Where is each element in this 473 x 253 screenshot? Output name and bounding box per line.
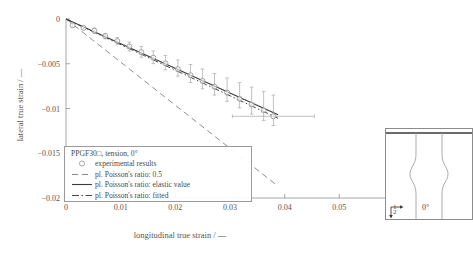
legend-item-poisson-half: pl. Poisson's ratio: 0.5 [69, 169, 247, 180]
x-tick-label: 0.04 [278, 203, 292, 212]
x-tick-label: 0.01 [114, 203, 128, 212]
legend-item-label: experimental results [95, 159, 156, 168]
legend-item-label: pl. Poisson's ratio: fitted [95, 191, 169, 200]
specimen-left-contour [410, 133, 416, 219]
legend-item-label: pl. Poisson's ratio: 0.5 [95, 170, 162, 179]
y-tick-label: −0.01 [0, 104, 60, 113]
figure-container: 0 −0.005 −0.01 −0.015 −0.02 0 0.01 0.02 … [0, 0, 473, 253]
inset-orientation-label: 0° [422, 203, 429, 212]
legend-item-poisson-elastic: pl. Poisson's ratio: elastic value [69, 180, 247, 191]
legend-title: PPGF30□, tension, 0° [71, 149, 247, 158]
chart-legend: PPGF30□, tension, 0° experimental result… [64, 146, 252, 202]
x-tick-label: 0 [64, 203, 68, 212]
dashed-line-icon [69, 170, 95, 179]
open-circle-icon [69, 159, 95, 168]
series-scatter-experimental [70, 23, 314, 126]
x-axis-title: longitudinal true strain / — [0, 230, 360, 240]
axis-indicator-label-2: 2 [393, 208, 397, 216]
specimen-inset: 1 2 0° [385, 128, 473, 220]
dashdot-line-icon [69, 191, 95, 200]
x-tick-label: 0.05 [332, 203, 346, 212]
solid-line-icon [69, 180, 95, 189]
specimen-right-contour [442, 133, 448, 219]
y-tick-label: 0 [0, 15, 60, 24]
legend-item-label: pl. Poisson's ratio: elastic value [95, 180, 190, 189]
marker-group [70, 23, 276, 119]
y-tick-label: −0.02 [0, 194, 60, 203]
y-tick-label: −0.015 [0, 149, 60, 158]
y-axis-title: lateral true strain / — [15, 25, 25, 185]
legend-item-poisson-fitted: pl. Poisson's ratio: fitted [69, 190, 247, 201]
x-tick-label: 0.03 [223, 203, 237, 212]
series-line-poisson-elastic [66, 19, 278, 115]
y-tick-label: −0.005 [0, 59, 60, 68]
x-tick-label: 0.02 [168, 203, 182, 212]
legend-item-experimental: experimental results [69, 159, 247, 170]
